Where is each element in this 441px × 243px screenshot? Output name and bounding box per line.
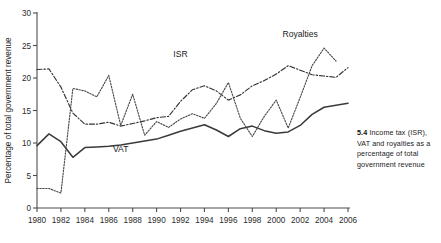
caption-text: Income tax (ISR), VAT and royalties as a… [357, 128, 430, 169]
y-axis-tick-label: 20 [22, 74, 32, 83]
series-label-vat: VAT [113, 144, 129, 154]
x-axis-tick-label: 1998 [243, 216, 262, 225]
line-chart: 0510152025301980198219841986198819901992… [0, 0, 441, 243]
x-axis-tick-label: 1984 [76, 216, 95, 225]
x-axis-tick-label: 1990 [148, 216, 167, 225]
x-axis-tick-label: 1988 [124, 216, 143, 225]
x-axis-tick-label: 1996 [219, 216, 238, 225]
x-axis-tick-label: 1986 [100, 216, 119, 225]
y-axis-tick-label: 25 [22, 42, 32, 51]
y-axis-title: Percentage of total government revenue [4, 37, 13, 184]
y-axis-tick-label: 30 [22, 9, 32, 18]
y-axis-tick-label: 10 [22, 139, 32, 148]
series-label-royalties: Royalties [282, 29, 317, 39]
y-axis-tick-label: 0 [26, 204, 31, 213]
series-line-vat [37, 103, 348, 157]
x-axis-tick-label: 2000 [267, 216, 286, 225]
series-line-royalties [37, 48, 336, 193]
x-axis-tick-label: 2006 [339, 216, 358, 225]
x-axis-tick-label: 1994 [195, 216, 214, 225]
x-axis-tick-label: 2004 [315, 216, 334, 225]
series-line-isr [37, 66, 348, 126]
x-axis-tick-label: 1980 [28, 216, 47, 225]
figure-caption: 5.4 Income tax (ISR), VAT and royalties … [357, 128, 441, 170]
x-axis-tick-label: 2002 [291, 216, 310, 225]
x-axis-tick-label: 1982 [52, 216, 71, 225]
y-axis-tick-label: 15 [22, 107, 32, 116]
y-axis-tick-label: 5 [26, 172, 31, 181]
figure-container: 0510152025301980198219841986198819901992… [0, 0, 441, 243]
x-axis-tick-label: 1992 [171, 216, 190, 225]
caption-number: 5.4 [357, 128, 367, 137]
series-label-isr: ISR [173, 49, 187, 59]
